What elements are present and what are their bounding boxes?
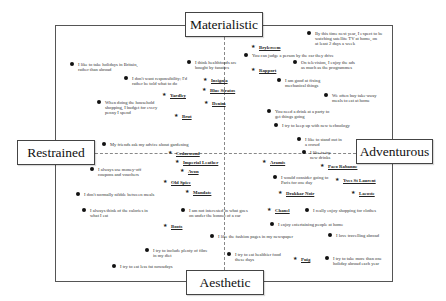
brand-point: ★Rapport [259, 68, 276, 73]
brand-label: Yves St Laurent [343, 178, 376, 183]
star-icon: ★ [351, 190, 355, 195]
pole-adventurous: Adventurous [356, 139, 433, 164]
pole-materialistic: Materialistic [185, 12, 263, 37]
bullet-dot-icon [328, 233, 332, 237]
statement-text: When doing the household shopping, I bud… [105, 100, 157, 115]
pole-label-right: Adventurous [360, 144, 430, 160]
bullet-dot-icon [227, 252, 231, 256]
statement-text: I try to include plenty of fibre in my d… [153, 248, 208, 258]
bullet-dot-icon [97, 100, 101, 104]
brand-point: ★Paco Rabanne [328, 164, 357, 169]
brand-point: ★Insignia [211, 78, 228, 83]
star-icon: ★ [163, 179, 167, 184]
statement-point: I would consider going to Paris for one … [281, 175, 328, 185]
statement-point: I really enjoy shopping for clothes [313, 208, 376, 213]
brand-point: ★Lacoste [359, 191, 375, 196]
statement-point: You need a drink at a party to get thing… [275, 109, 329, 119]
star-icon: ★ [163, 223, 167, 228]
brand-point: ★Cedarwood [176, 151, 200, 156]
statement-text: On television, I enjoy the ads as much a… [301, 60, 355, 70]
bullet-dot-icon [270, 222, 274, 226]
brand-label: Old Spice [171, 180, 191, 185]
star-icon: ★ [204, 100, 208, 105]
star-icon: ★ [185, 189, 189, 194]
statement-point: I like the fashion pages in my newspaper [218, 234, 293, 239]
brand-label: Blue Stratos [210, 88, 235, 93]
brand-point: ★Aramis [270, 160, 285, 165]
statement-text: I try to eat less fat nowadays [120, 264, 173, 269]
statement-point: On television, I enjoy the ads as much a… [301, 60, 355, 70]
brand-point: ★Avon [188, 169, 199, 174]
statement-point: My friends ask my advice about gardening [110, 142, 189, 147]
statement-text: I love travelling abroad [336, 233, 379, 238]
statement-text: I think healthfoods are bought by fanati… [195, 60, 236, 70]
statement-point: You can judge a person by the car they d… [252, 53, 334, 58]
bullet-dot-icon [273, 175, 277, 179]
bullet-dot-icon [274, 123, 278, 127]
brand-label: Imperial Leather [183, 160, 218, 165]
star-icon: ★ [293, 256, 297, 261]
statement-text: I don't normally nibble between meals [84, 192, 154, 197]
bullet-dot-icon [302, 150, 306, 154]
star-icon: ★ [251, 67, 255, 72]
bullet-dot-icon [181, 208, 185, 212]
brand-label: Yardley [170, 93, 186, 98]
statement-point: I like to try new drinks [310, 150, 331, 160]
bullet-dot-icon [305, 208, 309, 212]
statement-point: By this time next year, I expect to be w… [315, 31, 383, 47]
brand-label: Rapport [259, 68, 276, 73]
brand-label: Brut [182, 114, 192, 119]
bullet-dot-icon [112, 264, 116, 268]
statement-text: I enjoy entertaining people at home [278, 222, 343, 227]
brand-label: Boots [171, 224, 182, 229]
statement-text: We often buy take-away meals to eat at h… [332, 93, 377, 103]
brand-point: ★Yardley [170, 93, 186, 98]
statement-point: I love travelling abroad [336, 233, 379, 238]
star-icon: ★ [335, 177, 339, 182]
statement-point: When doing the household shopping, I bud… [105, 100, 157, 116]
bullet-dot-icon [76, 192, 80, 196]
bullet-dot-icon [145, 248, 149, 252]
bullet-dot-icon [325, 256, 329, 260]
brand-label: Drakkar Noir [286, 191, 314, 196]
statement-text: I like to take holidays in Britain, rath… [78, 62, 138, 72]
star-icon: ★ [180, 168, 184, 173]
bullet-dot-icon [244, 53, 248, 57]
brand-point: ★Imperial Leather [183, 160, 218, 165]
brand-point: ★Mandate [193, 190, 211, 195]
brand-label: Cedarwood [176, 151, 200, 156]
star-icon: ★ [174, 113, 178, 118]
brand-point: ★Brylcreem [259, 45, 281, 50]
star-icon: ★ [262, 159, 266, 164]
statement-point: I don't want responsibility; I'd rather … [132, 76, 187, 86]
statement-text: You can judge a person by the car they d… [252, 53, 334, 58]
statement-text: I always think of the calories in what I… [90, 208, 148, 218]
brand-label: Mandate [193, 190, 211, 195]
statement-text: I don't want responsibility; I'd rather … [132, 76, 187, 86]
statement-point: I try to take more than one holiday abro… [333, 256, 382, 266]
bullet-dot-icon [324, 93, 328, 97]
statement-text: I always use money-off coupons and vouch… [98, 167, 141, 177]
statement-text: I try to take more than one holiday abro… [333, 256, 382, 266]
bullet-dot-icon [297, 137, 301, 141]
star-icon: ★ [267, 207, 271, 212]
statement-point: I try to include plenty of fibre in my d… [153, 248, 208, 258]
statement-point: I don't normally nibble between meals [84, 192, 154, 197]
brand-label: Denim [212, 101, 226, 106]
bullet-dot-icon [277, 78, 281, 82]
brand-label: Lacoste [359, 191, 375, 196]
statement-point: I try to eat less fat nowadays [120, 264, 173, 269]
pole-restrained: Restrained [17, 140, 95, 165]
bullet-dot-icon [267, 109, 271, 113]
statement-point: I always use money-off coupons and vouch… [98, 167, 141, 177]
statement-text: I really enjoy shopping for clothes [313, 208, 376, 213]
brand-point: ★Old Spice [171, 180, 191, 185]
pole-label-left: Restrained [27, 145, 85, 161]
brand-label: Avon [188, 169, 199, 174]
brand-point: ★Chanel [275, 208, 290, 213]
bullet-dot-icon [90, 167, 94, 171]
brand-point: ★Puig [301, 257, 310, 262]
statement-text: I like to try new drinks [310, 150, 331, 160]
brand-label: Paco Rabanne [328, 164, 357, 169]
statement-text: I would consider going to Paris for one … [281, 175, 328, 185]
